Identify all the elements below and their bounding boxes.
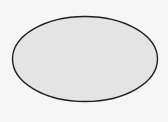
diagram-svg (0, 0, 168, 122)
diagram-canvas (0, 0, 168, 122)
ellipse-shape (13, 17, 158, 102)
